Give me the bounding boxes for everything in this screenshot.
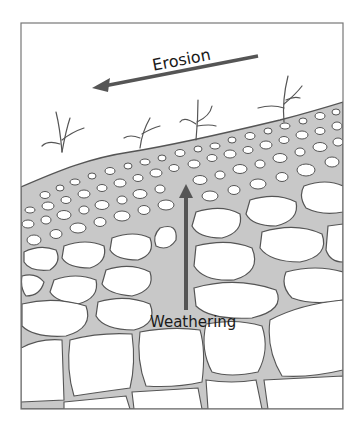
soil-weathering-erosion-diagram: Erosion Weathering bbox=[0, 0, 360, 430]
plant-1 bbox=[42, 112, 84, 152]
plant-3 bbox=[180, 100, 216, 140]
plant-2 bbox=[124, 118, 160, 148]
plant-4 bbox=[258, 76, 302, 122]
weathering-label: Weathering bbox=[150, 313, 236, 331]
